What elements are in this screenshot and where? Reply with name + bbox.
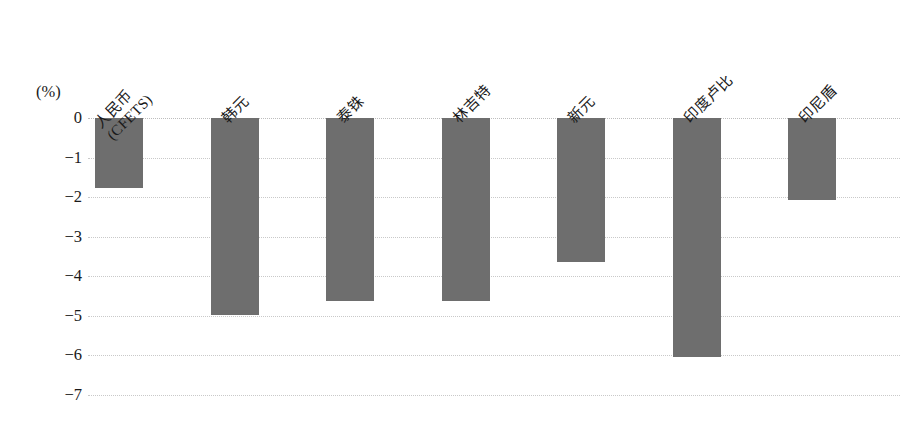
bar-chart: (%) 0−1−2−3−4−5−6−7 人民币 (CFETS)韩元泰铢林吉特新元… [0,0,919,433]
y-axis-tick: −5 [36,308,82,325]
bar [211,118,259,315]
y-axis-tick: −1 [36,149,82,166]
bar [442,118,490,301]
bar [326,118,374,301]
gridline [88,395,900,396]
y-axis-tick: −4 [36,268,82,285]
y-axis-tick: −3 [36,228,82,245]
y-axis-tick: −6 [36,347,82,364]
y-axis-unit-label: (%) [36,84,61,101]
plot-area [88,118,900,395]
y-axis-tick: −7 [36,387,82,404]
y-axis-tick: −2 [36,189,82,206]
gridline [88,355,900,356]
bar [788,118,836,200]
bar [673,118,721,357]
y-axis-tick: 0 [36,110,82,127]
bar [557,118,605,262]
y-axis-tick-labels: 0−1−2−3−4−5−6−7 [26,118,82,395]
gridline [88,316,900,317]
